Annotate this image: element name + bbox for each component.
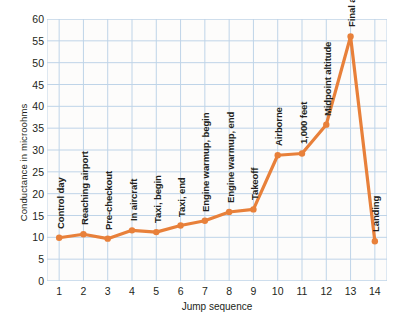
y-tick-label: 5 [2, 254, 44, 265]
y-tick-label: 55 [2, 36, 44, 47]
plot-area [47, 19, 387, 281]
y-tick-label: 50 [2, 57, 44, 68]
x-axis-title: Jump sequence [47, 301, 387, 312]
y-tick-label: 0 [2, 276, 44, 287]
y-tick-label: 20 [2, 188, 44, 199]
y-tick-label: 35 [2, 123, 44, 134]
x-tick-label: 14 [360, 284, 390, 298]
y-tick-label: 10 [2, 232, 44, 243]
y-tick-label: 25 [2, 167, 44, 178]
y-tick-label: 30 [2, 145, 44, 156]
y-axis-tick-labels: 051015202530354045505560 [0, 19, 44, 281]
y-tick-label: 45 [2, 79, 44, 90]
y-tick-label: 40 [2, 101, 44, 112]
conductance-line-chart: Conductance in microohms 051015202530354… [0, 0, 400, 325]
y-tick-label: 15 [2, 210, 44, 221]
x-axis-tick-labels: 1234567891011121314 [47, 284, 387, 300]
conductance-series [47, 19, 387, 281]
y-tick-label: 60 [2, 14, 44, 25]
